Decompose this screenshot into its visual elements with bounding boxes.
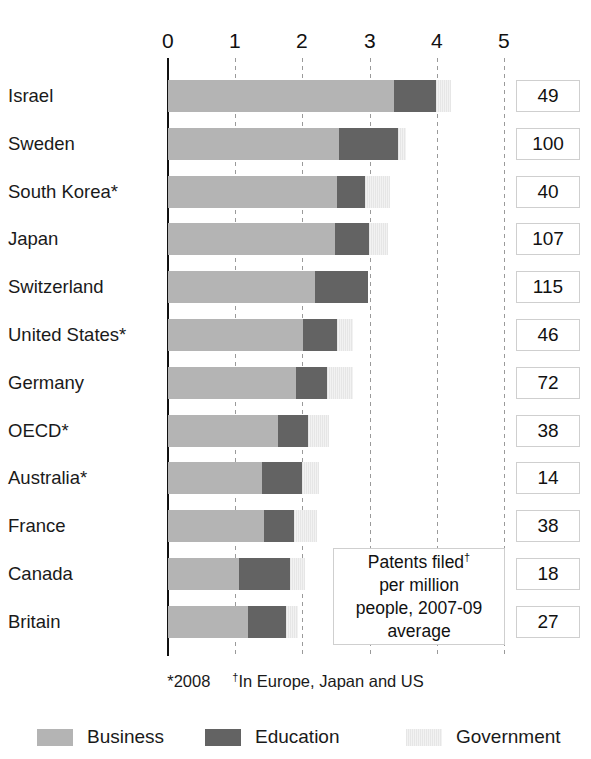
table-row: Switzerland115 <box>0 263 591 311</box>
callout-line-1: Patents filed† <box>368 551 470 574</box>
legend: Business Education Government <box>0 722 591 758</box>
patents-value-box: 14 <box>516 462 580 494</box>
bar-segment-education <box>303 319 337 351</box>
table-row: United States*46 <box>0 311 591 359</box>
table-row: Japan107 <box>0 215 591 263</box>
x-axis-tick-0: 0 <box>162 30 174 51</box>
bar-segment-education <box>339 128 399 160</box>
legend-item-education: Education <box>205 722 340 752</box>
row-label: Britain <box>8 611 158 633</box>
stacked-bar <box>168 128 406 160</box>
callout-line-4: average <box>387 620 450 643</box>
bar-segment-government <box>286 606 299 638</box>
bar-segment-government <box>327 367 353 399</box>
stacked-bar <box>168 223 388 255</box>
chart-plot-area: 0 1 2 3 4 5 Israel49Sweden100South Korea… <box>0 0 591 700</box>
bar-segment-education <box>394 80 436 112</box>
table-row: France38 <box>0 502 591 550</box>
row-label: Switzerland <box>8 276 158 298</box>
callout-box: Patents filed† per million people, 2007-… <box>333 548 505 645</box>
bar-segment-business <box>168 510 264 542</box>
callout-line-1-text: Patents filed <box>368 552 464 572</box>
bar-segment-business <box>168 319 303 351</box>
table-row: Sweden100 <box>0 120 591 168</box>
dagger-marker: † <box>464 551 470 563</box>
legend-label-education: Education <box>255 726 340 748</box>
patents-value-box: 27 <box>516 606 580 638</box>
table-row: Germany72 <box>0 359 591 407</box>
x-axis-tick-4: 4 <box>431 30 443 51</box>
bar-segment-education <box>296 367 328 399</box>
footnote-asterisk: *2008 <box>167 672 210 691</box>
bar-segment-business <box>168 367 296 399</box>
stacked-bar <box>168 510 317 542</box>
row-label: Germany <box>8 372 158 394</box>
patents-value-box: 100 <box>516 128 580 160</box>
bar-segment-education <box>335 223 369 255</box>
row-label: South Korea* <box>8 181 158 203</box>
row-label: Sweden <box>8 133 158 155</box>
legend-item-business: Business <box>37 722 164 752</box>
row-label: OECD* <box>8 420 158 442</box>
bar-segment-government <box>365 176 391 208</box>
callout-line-2: per million <box>379 574 459 597</box>
bar-segment-government <box>308 415 328 447</box>
x-axis-tick-3: 3 <box>364 30 376 51</box>
patents-value-box: 40 <box>516 176 580 208</box>
bar-segment-government <box>294 510 317 542</box>
bar-segment-government <box>290 558 305 590</box>
callout-line-3: people, 2007-09 <box>356 597 483 620</box>
patents-value-box: 115 <box>516 271 580 303</box>
legend-item-government: Government <box>406 722 561 752</box>
bar-segment-government <box>436 80 451 112</box>
bar-segment-business <box>168 176 337 208</box>
x-axis-tick-5: 5 <box>498 30 510 51</box>
legend-swatch-education-icon <box>205 729 241 746</box>
stacked-bar <box>168 606 298 638</box>
patents-value-box: 38 <box>516 415 580 447</box>
patents-value-box: 49 <box>516 80 580 112</box>
footnote-dagger: †In Europe, Japan and US <box>232 672 423 691</box>
x-axis-tick-2: 2 <box>296 30 308 51</box>
row-label: Japan <box>8 228 158 250</box>
patents-value-box: 72 <box>516 367 580 399</box>
legend-swatch-government-icon <box>406 729 442 746</box>
bar-segment-business <box>168 271 315 303</box>
patents-value-box: 18 <box>516 558 580 590</box>
row-label: Australia* <box>8 467 158 489</box>
stacked-bar <box>168 558 305 590</box>
patents-value-box: 46 <box>516 319 580 351</box>
stacked-bar <box>168 415 329 447</box>
stacked-bar <box>168 271 368 303</box>
stacked-bar <box>168 462 319 494</box>
row-label: Israel <box>8 85 158 107</box>
bar-segment-education <box>337 176 365 208</box>
bar-segment-education <box>315 271 367 303</box>
bar-segment-government <box>398 128 405 160</box>
footnotes: *2008†In Europe, Japan and US <box>0 672 591 691</box>
legend-label-business: Business <box>87 726 164 748</box>
stacked-bar <box>168 176 390 208</box>
stacked-bar <box>168 367 353 399</box>
x-axis-tick-1: 1 <box>229 30 241 51</box>
bar-segment-business <box>168 415 278 447</box>
bar-segment-education <box>262 462 302 494</box>
bar-segment-business <box>168 558 239 590</box>
patents-value-box: 107 <box>516 223 580 255</box>
table-row: Israel49 <box>0 72 591 120</box>
stacked-bar <box>168 80 451 112</box>
legend-label-government: Government <box>456 726 561 748</box>
row-label: United States* <box>8 324 158 346</box>
footnote-dagger-text: In Europe, Japan and US <box>238 672 423 690</box>
bar-segment-government <box>337 319 354 351</box>
legend-swatch-business-icon <box>37 729 73 746</box>
bar-segment-education <box>278 415 308 447</box>
bar-segment-government <box>369 223 388 255</box>
bar-segment-business <box>168 80 394 112</box>
bar-segment-government <box>302 462 318 494</box>
table-row: South Korea*40 <box>0 168 591 216</box>
bar-segment-education <box>239 558 291 590</box>
bar-segment-business <box>168 223 335 255</box>
stacked-bar <box>168 319 353 351</box>
row-label: France <box>8 515 158 537</box>
